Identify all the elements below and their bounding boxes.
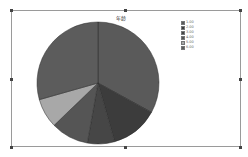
legend-swatch xyxy=(181,41,185,45)
legend-item: 6.00 xyxy=(181,45,194,50)
pie-chart[interactable] xyxy=(0,0,248,157)
legend-label: 6.00 xyxy=(186,45,194,50)
chart-legend: 1.002.003.004.005.006.00 xyxy=(181,20,194,50)
legend-swatch xyxy=(181,46,185,50)
legend-swatch xyxy=(181,36,185,40)
legend-swatch xyxy=(181,31,185,35)
legend-swatch xyxy=(181,21,185,25)
legend-swatch xyxy=(181,26,185,30)
